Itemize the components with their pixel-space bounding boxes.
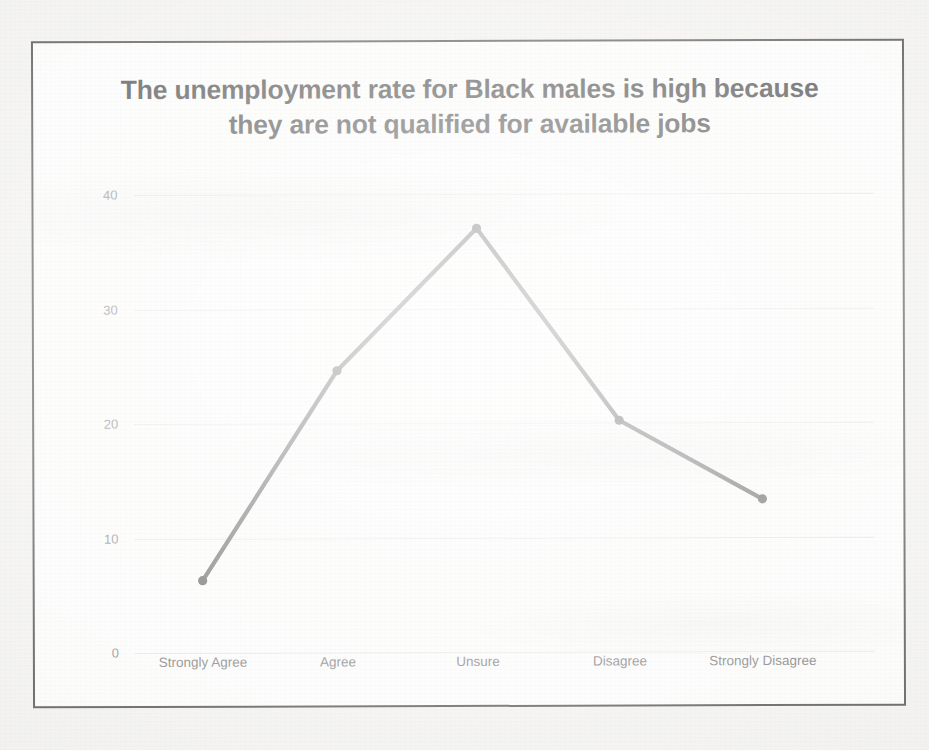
- chart-frame: The unemployment rate for Black males is…: [31, 39, 906, 709]
- line-series-svg: [33, 41, 908, 711]
- data-point-marker: [615, 416, 624, 425]
- chart-container: The unemployment rate for Black males is…: [33, 41, 904, 707]
- data-point-marker: [758, 494, 767, 503]
- data-point-marker: [198, 576, 207, 585]
- plot-area: 010203040 Strongly AgreeAgreeUnsureDisag…: [33, 41, 908, 711]
- data-point-marker: [332, 366, 341, 375]
- series-markers: [197, 223, 767, 586]
- series-line: [202, 227, 763, 580]
- scanned-page: The unemployment rate for Black males is…: [0, 0, 929, 750]
- data-point-marker: [472, 224, 481, 233]
